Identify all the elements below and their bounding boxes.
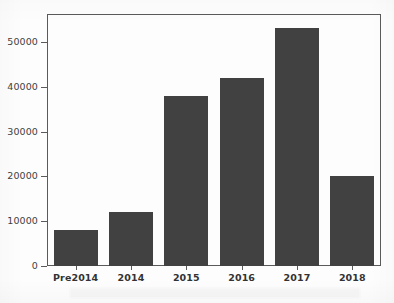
y-axis-tick-label: 40000 [7, 81, 38, 92]
y-axis-tick-mark [41, 266, 47, 267]
bar-slot [103, 15, 158, 266]
x-axis-tick-label-2017: 2017 [284, 272, 311, 283]
bar-slot [214, 15, 269, 266]
y-axis-tick-label: 0 [32, 260, 38, 271]
y-axis-tick-label: 10000 [7, 215, 38, 226]
bar-2014[interactable] [109, 212, 153, 266]
x-axis-tick-mark [242, 266, 243, 270]
bar-slot [269, 15, 324, 266]
bar-2017[interactable] [275, 28, 319, 266]
x-axis-tick-label-2016: 2016 [228, 272, 255, 283]
scan-smudge [70, 288, 360, 298]
x-axis-tick-label-pre2014: Pre2014 [53, 272, 98, 283]
bar-slot [48, 15, 103, 266]
bar-slot [325, 15, 380, 266]
plot-area [48, 15, 380, 266]
bar-2015[interactable] [164, 96, 208, 266]
bar-slot [159, 15, 214, 266]
y-axis-tick-label: 30000 [7, 126, 38, 137]
bar-pre2014[interactable] [54, 230, 98, 266]
x-axis-tick-label-2015: 2015 [173, 272, 200, 283]
bar-2018[interactable] [330, 176, 374, 266]
y-axis-tick-label: 20000 [7, 170, 38, 181]
bar-2016[interactable] [220, 78, 264, 266]
x-axis-tick-mark [352, 266, 353, 270]
x-axis-tick-mark [297, 266, 298, 270]
x-axis-tick-label-2018: 2018 [339, 272, 366, 283]
x-axis-tick-mark [131, 266, 132, 270]
y-axis-tick-label: 50000 [7, 36, 38, 47]
x-axis-tick-mark [186, 266, 187, 270]
chart-figure: 01000020000300004000050000 Pre2014201420… [0, 0, 394, 303]
x-axis-tick-label-2014: 2014 [118, 272, 145, 283]
x-axis-tick-mark [76, 266, 77, 270]
